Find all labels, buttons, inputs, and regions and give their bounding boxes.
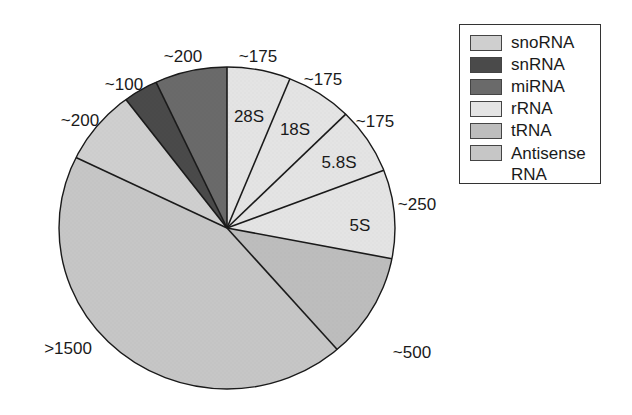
legend-swatch (470, 79, 502, 95)
legend-item-mirna: miRNA (470, 77, 565, 97)
slice-value-label: ~250 (398, 195, 436, 215)
legend-item-rrna: rRNA (470, 99, 553, 119)
legend-swatch (470, 123, 502, 139)
legend-label: snRNA (511, 55, 565, 75)
legend-swatch (470, 35, 502, 51)
legend-label: tRNA (511, 121, 552, 141)
legend-item-snorna: snoRNA (470, 33, 574, 53)
slice-value-label: ~200 (164, 47, 202, 67)
rrna-subtype-label: 5S (350, 216, 371, 236)
legend-label: miRNA (511, 77, 565, 97)
slice-value-label: ~175 (356, 112, 394, 132)
legend-label: Antisense RNA (511, 143, 601, 185)
legend-swatch (470, 57, 502, 73)
legend-item-trna: tRNA (470, 121, 552, 141)
slice-value-label: ~500 (393, 343, 431, 363)
legend-label: rRNA (511, 99, 553, 119)
rrna-subtype-label: 28S (234, 107, 264, 127)
legend-swatch (470, 145, 502, 161)
slice-value-label: >1500 (44, 339, 92, 359)
slice-value-label: ~200 (61, 111, 99, 131)
slice-value-label: ~175 (239, 47, 277, 67)
slice-value-label: ~175 (304, 70, 342, 90)
rrna-subtype-label: 5.8S (322, 153, 357, 173)
slice-value-label: ~100 (105, 75, 143, 95)
legend-swatch (470, 101, 502, 117)
chart-legend: snoRNA snRNA miRNA rRNA tRNA Antisense R… (459, 24, 601, 184)
rrna-subtype-label: 18S (280, 120, 310, 140)
legend-item-snrna: snRNA (470, 55, 565, 75)
legend-label: snoRNA (511, 33, 574, 53)
legend-item-antisense-rna: Antisense RNA (470, 143, 601, 183)
